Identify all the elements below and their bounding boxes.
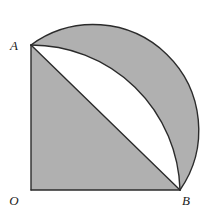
figure-canvas: A O B [0, 0, 221, 214]
label-B: B [182, 193, 190, 208]
shaded-region [31, 25, 199, 190]
label-O: O [9, 193, 19, 208]
label-A: A [9, 38, 18, 53]
geometry-figure: A O B [0, 0, 221, 214]
